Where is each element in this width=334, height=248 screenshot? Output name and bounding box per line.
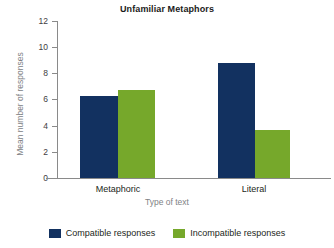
x-category-label-literal: Literal xyxy=(214,184,294,194)
x-axis-title: Type of text xyxy=(0,197,334,207)
bar-metaphoric-compatible xyxy=(80,96,118,179)
bar-literal-incompatible xyxy=(255,130,290,178)
plot-area xyxy=(57,21,330,178)
chart-legend: Compatible responses Incompatible respon… xyxy=(0,228,334,238)
y-tick-label-12: 12 xyxy=(18,16,48,26)
legend-item-compatible: Compatible responses xyxy=(49,228,156,238)
x-axis-line xyxy=(46,178,331,179)
bar-metaphoric-incompatible xyxy=(118,90,155,178)
chart-title: Unfamiliar Metaphors xyxy=(0,4,334,14)
legend-swatch-icon-compatible xyxy=(49,229,61,238)
bar-chart: Unfamiliar Metaphors 12 10 8 6 4 2 0 Mea… xyxy=(0,0,334,248)
x-category-label-metaphoric: Metaphoric xyxy=(78,184,158,194)
legend-label-incompatible: Incompatible responses xyxy=(190,228,285,238)
bar-literal-compatible xyxy=(218,63,255,178)
y-tick-label-0: 0 xyxy=(18,173,48,183)
y-axis-title: Mean number of responses xyxy=(15,44,25,164)
legend-item-incompatible: Incompatible responses xyxy=(173,228,285,238)
legend-swatch-icon-incompatible xyxy=(173,229,185,238)
legend-label-compatible: Compatible responses xyxy=(66,228,156,238)
